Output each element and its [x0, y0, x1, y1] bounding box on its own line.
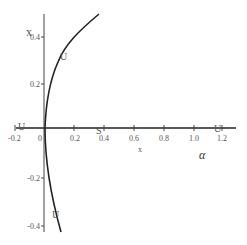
svg-text:-0.4: -0.4 — [27, 222, 40, 231]
x-tick-labels: -0.2 0 0.2 0.4 0.6 0.8 1.0 1.2 — [8, 134, 227, 143]
svg-text:U: U — [214, 123, 222, 134]
svg-text:-0.2: -0.2 — [8, 134, 21, 143]
svg-text:0.2: 0.2 — [30, 80, 40, 89]
svg-text:0.2: 0.2 — [70, 134, 80, 143]
curve-series — [45, 14, 99, 232]
svg-text:0.8: 0.8 — [159, 134, 169, 143]
svg-text:-0.2: -0.2 — [27, 174, 40, 183]
svg-text:1.0: 1.0 — [189, 134, 199, 143]
svg-text:0.6: 0.6 — [129, 134, 139, 143]
svg-text:U: U — [52, 209, 60, 220]
svg-text:U: U — [60, 51, 68, 62]
y-axis-label: x — [26, 25, 32, 39]
chart-canvas: -0.2 0 0.2 0.4 0.6 0.8 1.0 1.2 0.4 0.2 -… — [0, 0, 247, 245]
svg-text:0: 0 — [38, 134, 42, 143]
svg-text:1.2: 1.2 — [217, 134, 227, 143]
x-axis-label: x — [138, 145, 142, 154]
svg-text:S: S — [96, 125, 102, 136]
svg-text:U: U — [18, 121, 26, 132]
alpha-label: α — [199, 148, 206, 162]
y-tick-labels: 0.4 0.2 -0.2 -0.4 — [27, 33, 40, 231]
